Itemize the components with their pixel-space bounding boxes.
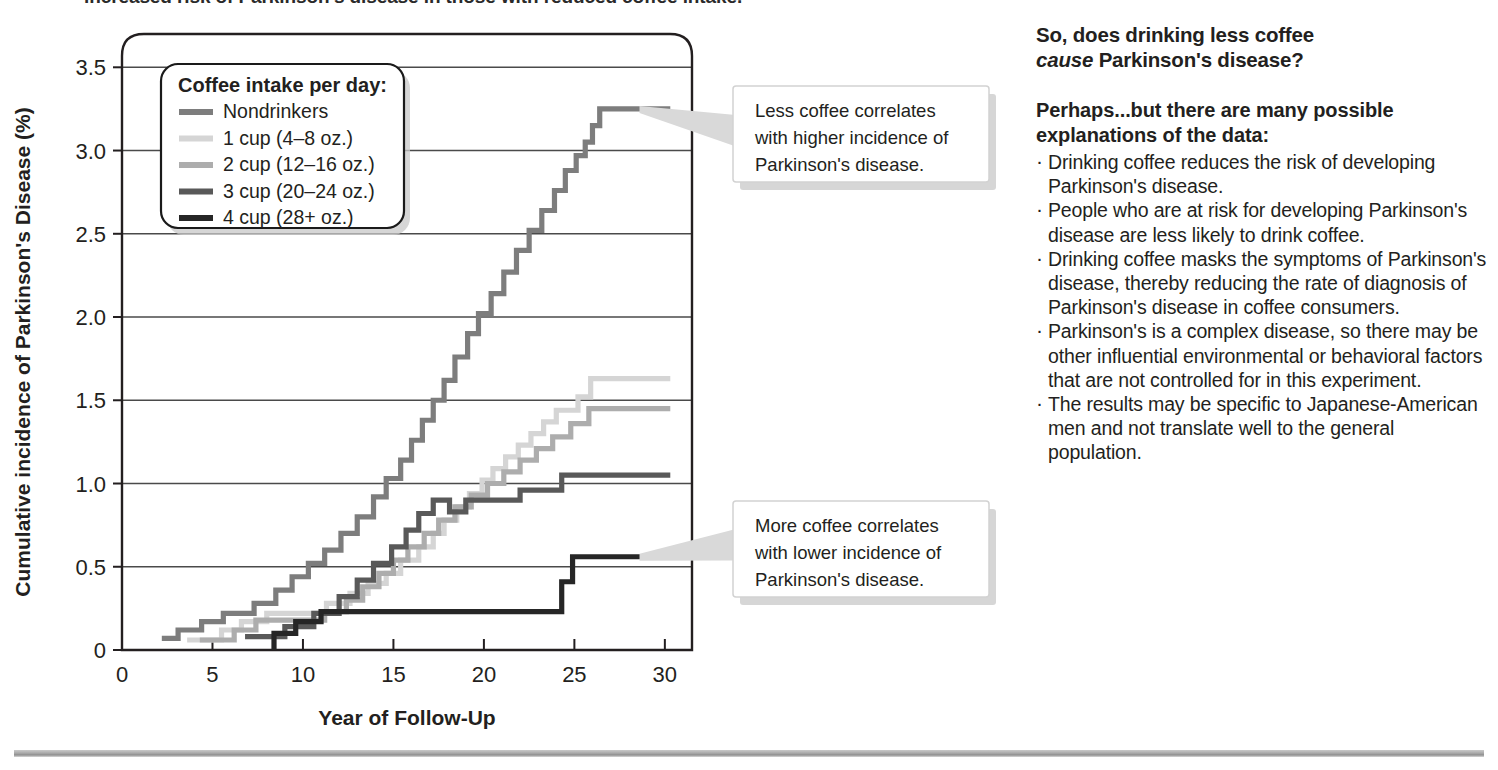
- x-tick-label: 0: [116, 662, 128, 687]
- explanation-item: The results may be specific to Japanese-…: [1036, 392, 1488, 465]
- sidebar-lead-line1: Perhaps...but there are many possible: [1036, 99, 1394, 121]
- x-tick-label: 20: [472, 662, 496, 687]
- y-tick-label: 3.5: [75, 55, 106, 80]
- y-axis-label: Cumulative incidence of Parkinson's Dise…: [11, 107, 34, 596]
- sidebar-heading-line1: So, does drinking less coffee: [1036, 23, 1314, 46]
- y-tick-label: 0: [94, 638, 106, 663]
- sidebar-heading: So, does drinking less coffee cause Park…: [1036, 22, 1488, 72]
- chart-panel: 051015202530 00.51.01.52.02.53.03.5 Less…: [0, 14, 1010, 740]
- cropped-headline-strip: increased risk of Parkinson's disease in…: [0, 0, 1498, 14]
- legend-title: Coffee intake per day:: [178, 74, 387, 96]
- y-tick-label: 2.5: [75, 222, 106, 247]
- y-tick-label: 2.0: [75, 305, 106, 330]
- x-tick-label: 10: [291, 662, 315, 687]
- y-tick-label: 3.0: [75, 139, 106, 164]
- legend-label-1: 1 cup (4–8 oz.): [223, 127, 353, 149]
- sidebar-heading-line2: Parkinson's disease?: [1093, 48, 1303, 71]
- callout-1-line-2: Parkinson's disease.: [755, 569, 924, 590]
- y-tick-label: 1.0: [75, 472, 106, 497]
- legend-label-4: 4 cup (28+ oz.): [223, 206, 354, 228]
- legend-label-3: 3 cup (20–24 oz.): [223, 180, 375, 202]
- explanation-sidebar: So, does drinking less coffee cause Park…: [1036, 22, 1488, 465]
- sidebar-heading-emphasis: cause: [1036, 48, 1093, 71]
- callout-0-line-1: with higher incidence of: [754, 127, 949, 148]
- sidebar-lead-line2: explanations of the data:: [1036, 124, 1269, 146]
- x-tick-label: 5: [206, 662, 218, 687]
- y-tick-label: 1.5: [75, 388, 106, 413]
- callout-1-line-1: with lower incidence of: [754, 542, 942, 563]
- incidence-step-chart: 051015202530 00.51.01.52.02.53.03.5 Less…: [0, 14, 1010, 740]
- callout-connector-1: [640, 530, 733, 561]
- callout-0-line-0: Less coffee correlates: [755, 100, 936, 121]
- explanation-item: Drinking coffee masks the symptoms of Pa…: [1036, 247, 1488, 320]
- footer-rule: [14, 750, 1484, 757]
- x-axis-label: Year of Follow-Up: [318, 706, 495, 729]
- legend-label-2: 2 cup (12–16 oz.): [223, 153, 375, 175]
- callout-connector-0: [640, 106, 733, 146]
- sidebar-lead: Perhaps...but there are many possible ex…: [1036, 98, 1488, 147]
- cropped-headline-text: increased risk of Parkinson's disease in…: [84, 0, 742, 8]
- x-axis-ticks: 051015202530: [116, 639, 677, 687]
- explanation-item: People who are at risk for developing Pa…: [1036, 198, 1488, 246]
- explanation-item: Parkinson's is a complex disease, so the…: [1036, 319, 1488, 392]
- x-tick-label: 25: [562, 662, 586, 687]
- chart-legend: Coffee intake per day:Nondrinkers1 cup (…: [161, 64, 410, 235]
- y-axis-ticks: 00.51.01.52.02.53.03.5: [75, 55, 122, 663]
- explanation-item: Drinking coffee reduces the risk of deve…: [1036, 150, 1488, 198]
- callout-1-line-0: More coffee correlates: [755, 515, 939, 536]
- y-tick-label: 0.5: [75, 555, 106, 580]
- x-tick-label: 15: [381, 662, 405, 687]
- x-tick-label: 30: [653, 662, 677, 687]
- explanation-list: Drinking coffee reduces the risk of deve…: [1036, 150, 1488, 465]
- legend-label-0: Nondrinkers: [223, 100, 328, 122]
- callout-0-line-2: Parkinson's disease.: [755, 154, 924, 175]
